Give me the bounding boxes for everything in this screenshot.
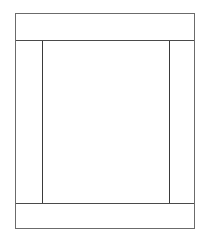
footer-region bbox=[16, 203, 194, 228]
page-frame bbox=[15, 13, 195, 229]
left-sidebar-region bbox=[16, 41, 43, 203]
main-content-region bbox=[43, 41, 169, 203]
right-sidebar-region bbox=[169, 41, 194, 203]
header-region bbox=[16, 14, 194, 41]
layout-diagram bbox=[0, 0, 205, 236]
